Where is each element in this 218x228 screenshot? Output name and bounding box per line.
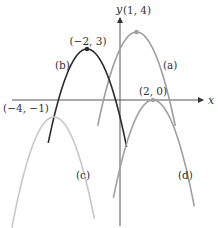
parabola-chart: x y (1, 4) (a) (−2, 3) (b) (−4, −1) (c) … bbox=[0, 0, 218, 228]
curve-a: (1, 4) (a) bbox=[98, 4, 178, 126]
curve-a-label: (a) bbox=[163, 59, 177, 71]
vertex-d-label: (2, 0) bbox=[139, 85, 167, 97]
y-axis-label: y bbox=[115, 3, 123, 16]
parabola-d bbox=[113, 100, 194, 206]
curve-d: (2, 0) (d) bbox=[113, 85, 194, 206]
vertex-b-label: (−2, 3) bbox=[69, 35, 106, 47]
curve-c: (−4, −1) (c) bbox=[3, 102, 94, 228]
x-axis-label: x bbox=[208, 94, 215, 107]
curve-b-label: (b) bbox=[55, 59, 70, 71]
vertex-a-label: (1, 4) bbox=[123, 4, 151, 16]
curve-c-label: (c) bbox=[76, 169, 90, 181]
curve-d-label: (d) bbox=[178, 169, 193, 181]
vertex-a-dot bbox=[134, 30, 138, 34]
curve-b: (−2, 3) (b) bbox=[48, 35, 126, 147]
vertex-c-label: (−4, −1) bbox=[3, 102, 49, 114]
vertex-b-dot bbox=[85, 47, 89, 51]
vertex-d-dot bbox=[151, 98, 155, 102]
